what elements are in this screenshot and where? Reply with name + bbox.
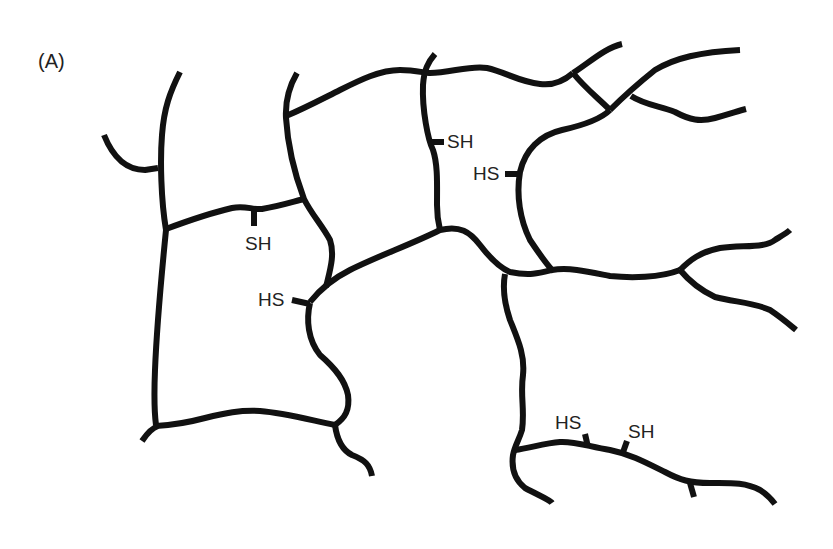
thiol-label-6: SH	[628, 421, 654, 442]
strand-right-fork-lower	[680, 270, 796, 330]
strand-top-right-upper-branch	[573, 44, 622, 73]
strand-top	[286, 67, 573, 116]
strand-top-right-diagonal	[573, 73, 610, 110]
polymer-network-diagram: (A)	[0, 0, 833, 549]
strand-left-vertical	[154, 72, 180, 425]
strand-top-right-lower-branch	[631, 96, 746, 120]
strand-top-right-cross	[610, 50, 740, 110]
network-strands	[104, 44, 796, 504]
strand-bottom-tail	[335, 425, 372, 476]
strand-right-fork-upper	[680, 230, 790, 270]
thiol-groups: SH HS SH HS HS SH	[245, 131, 694, 497]
strand-s-curve	[308, 303, 348, 425]
panel-label: (A)	[38, 50, 65, 72]
thiol-label-5: HS	[555, 412, 581, 433]
strand-left-box-bottom	[156, 411, 335, 426]
strand-central	[310, 228, 680, 302]
thiol-label-3: SH	[447, 131, 473, 152]
thiol-stub-2	[292, 300, 310, 304]
thiol-label-1: SH	[245, 233, 271, 254]
thiol-stub-unlabeled	[690, 483, 694, 497]
thiol-label-2: HS	[258, 289, 284, 310]
strand-bottom-left-hook	[142, 426, 158, 441]
strand-bottom-right	[515, 442, 775, 504]
strand-left-hook	[104, 135, 158, 170]
strand-lower-vertical	[504, 274, 552, 503]
thiol-label-4: HS	[473, 163, 499, 184]
strand-right-loop	[518, 110, 610, 270]
thiol-stub-5	[585, 434, 588, 447]
strand-left-box-top	[166, 199, 304, 229]
